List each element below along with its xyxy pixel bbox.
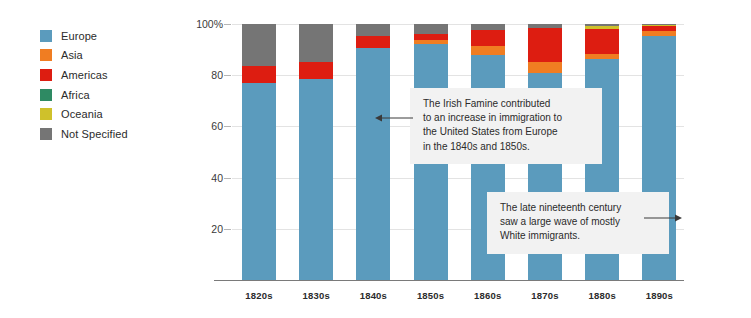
- bar-segment-americas[interactable]: [414, 34, 448, 40]
- bar-segment-not-specified[interactable]: [471, 24, 505, 30]
- bar-segment-americas[interactable]: [585, 29, 619, 55]
- legend-item-not-specified[interactable]: Not Specified: [40, 124, 170, 144]
- late-nineteenth-century-annotation-arrow: [644, 213, 682, 223]
- y-axis-tick-mark: [224, 126, 231, 127]
- legend-swatch-icon: [40, 108, 52, 120]
- bar-segment-europe[interactable]: [299, 79, 333, 280]
- x-axis-tick-label-1860s: 1860s: [458, 290, 518, 301]
- bar-segment-oceania[interactable]: [642, 25, 676, 26]
- legend-item-oceania[interactable]: Oceania: [40, 104, 170, 124]
- bar-segment-americas[interactable]: [299, 62, 333, 79]
- bar-segment-oceania[interactable]: [585, 26, 619, 29]
- bar-segment-asia[interactable]: [585, 54, 619, 58]
- axis-baseline: [214, 280, 684, 282]
- bar-segment-asia[interactable]: [471, 46, 505, 54]
- legend-item-label: Africa: [61, 89, 90, 101]
- legend-item-americas[interactable]: Americas: [40, 65, 170, 85]
- bar-segment-not-specified[interactable]: [642, 24, 676, 25]
- bar-1830s[interactable]: [299, 24, 333, 280]
- y-axis-tick-label: 60: [211, 120, 223, 132]
- y-axis-tick-label: 20: [211, 223, 223, 235]
- x-axis-tick-label-1880s: 1880s: [572, 290, 632, 301]
- bar-segment-americas[interactable]: [471, 30, 505, 47]
- legend-swatch-icon: [40, 69, 52, 81]
- bar-segment-europe[interactable]: [356, 48, 390, 280]
- legend-item-asia[interactable]: Asia: [40, 46, 170, 66]
- legend-item-europe[interactable]: Europe: [40, 26, 170, 46]
- legend-swatch-icon: [40, 89, 52, 101]
- bar-segment-not-specified[interactable]: [299, 24, 333, 62]
- bar-segment-asia[interactable]: [642, 31, 676, 36]
- y-axis-tick-mark: [224, 75, 231, 76]
- y-axis-tick-mark: [224, 229, 231, 230]
- bar-segment-not-specified[interactable]: [528, 24, 562, 28]
- legend: EuropeAsiaAmericasAfricaOceaniaNot Speci…: [40, 26, 170, 144]
- irish-famine-annotation: The Irish Famine contributed to an incre…: [410, 88, 602, 164]
- bar-segment-not-specified[interactable]: [585, 24, 619, 26]
- bar-segment-not-specified[interactable]: [242, 24, 276, 66]
- legend-item-label: Not Specified: [61, 128, 128, 140]
- legend-swatch-icon: [40, 30, 52, 42]
- late-nineteenth-century-annotation: The late nineteenth century saw a large …: [487, 192, 669, 254]
- y-axis-tick-label: 100%: [196, 18, 223, 30]
- x-axis-tick-label-1850s: 1850s: [401, 290, 461, 301]
- legend-item-label: Oceania: [61, 108, 103, 120]
- y-axis-tick-label: 40: [211, 172, 223, 184]
- x-axis-tick-label-1890s: 1890s: [629, 290, 689, 301]
- bar-segment-asia[interactable]: [528, 62, 562, 73]
- x-axis-tick-label-1840s: 1840s: [343, 290, 403, 301]
- bar-1820s[interactable]: [242, 24, 276, 280]
- bar-segment-americas[interactable]: [242, 66, 276, 83]
- bar-1840s[interactable]: [356, 24, 390, 280]
- y-axis-tick-mark: [224, 178, 231, 179]
- legend-item-label: Asia: [61, 49, 83, 61]
- bar-segment-asia[interactable]: [414, 40, 448, 44]
- y-axis-tick-mark: [224, 24, 231, 25]
- bar-segment-americas[interactable]: [356, 36, 390, 49]
- bar-segment-americas[interactable]: [528, 28, 562, 61]
- y-axis-tick-label: 80: [211, 69, 223, 81]
- legend-swatch-icon: [40, 128, 52, 140]
- legend-item-label: Americas: [61, 69, 108, 81]
- bar-segment-americas[interactable]: [642, 26, 676, 31]
- irish-famine-annotation-arrow: [375, 113, 413, 123]
- x-axis-tick-label-1830s: 1830s: [286, 290, 346, 301]
- legend-item-africa[interactable]: Africa: [40, 85, 170, 105]
- x-axis-tick-label-1870s: 1870s: [515, 290, 575, 301]
- x-axis-tick-label-1820s: 1820s: [229, 290, 289, 301]
- legend-swatch-icon: [40, 49, 52, 61]
- bar-segment-not-specified[interactable]: [356, 24, 390, 36]
- bar-segment-europe[interactable]: [242, 83, 276, 280]
- bar-segment-not-specified[interactable]: [414, 24, 448, 34]
- legend-item-label: Europe: [61, 30, 97, 42]
